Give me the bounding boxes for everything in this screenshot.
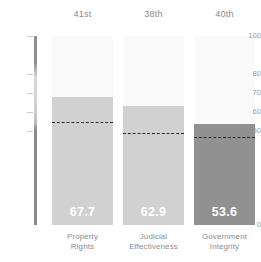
y-axis-bar [34,36,37,225]
bar-value-property-rights: 67.7 [52,205,113,219]
category-label-line-1: Judicial [114,232,193,242]
y-tick-label-100: 100 [235,31,261,40]
category-label-government-integrity: Government Integrity [185,232,261,251]
y-tick-mark-50 [27,131,33,132]
bar-value-government-integrity: 53.6 [194,205,255,219]
y-tick-label-60: 60 [235,107,261,116]
category-label-line-1: Property [43,232,122,242]
reference-line-government-integrity [194,137,255,138]
category-label-line-2: Integrity [185,242,261,252]
bar-government-integrity: 53.6 [194,124,255,225]
plot-area: 050607080100 67.7 62.9 53.6 Property Rig… [0,0,261,262]
bar-judicial-effectiveness: 62.9 [123,106,184,225]
y-tick-mark-80 [27,74,33,75]
y-tick-mark-100 [27,36,33,37]
category-label-judicial-effectiveness: Judicial Effectiveness [114,232,193,251]
category-label-line-2: Rights [43,242,122,252]
category-label-property-rights: Property Rights [43,232,122,251]
reference-line-judicial-effectiveness [123,133,184,134]
bar-property-rights: 67.7 [52,97,113,225]
reference-line-property-rights [52,122,113,123]
category-label-line-2: Effectiveness [114,242,193,252]
y-tick-label-70: 70 [235,88,261,97]
category-label-line-1: Government [185,232,261,242]
bar-value-judicial-effectiveness: 62.9 [123,205,184,219]
y-tick-mark-60 [27,112,33,113]
y-tick-label-80: 80 [235,69,261,78]
rule-of-law-bar-chart: 41st 38th 40th 050607080100 67.7 62.9 53… [0,0,261,262]
y-tick-mark-70 [27,93,33,94]
